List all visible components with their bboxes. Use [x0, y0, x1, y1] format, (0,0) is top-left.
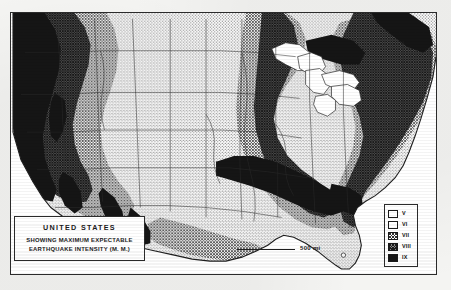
scale-bar-label: 500 mi	[300, 245, 320, 251]
legend-item: VII	[388, 230, 415, 241]
map-title-block: UNITED STATES SHOWING MAXIMUM EXPECTABLE…	[14, 216, 145, 261]
map-frame: UNITED STATES SHOWING MAXIMUM EXPECTABLE…	[10, 12, 437, 275]
legend-swatch-ix	[388, 254, 398, 262]
legend-swatch-vii	[388, 232, 398, 240]
legend-item: IX	[388, 252, 415, 263]
legend-label-viii: VIII	[402, 244, 411, 249]
legend-item: VI	[388, 219, 415, 230]
map-title-line2: SHOWING MAXIMUM EXPECTABLE	[26, 236, 133, 245]
legend-swatch-v	[388, 210, 398, 218]
scale-bar-line	[237, 249, 295, 250]
legend-swatch-viii	[388, 243, 398, 251]
legend-label-vi: VI	[402, 222, 408, 227]
scale-bar: 500 mi	[237, 246, 320, 252]
map-title-line3: EARTHQUAKE INTENSITY (M. M.)	[29, 245, 130, 254]
legend-swatch-vi	[388, 221, 398, 229]
legend-label-vii: VII	[402, 233, 409, 238]
intensity-legend: V VI VII VIII IX	[384, 204, 418, 267]
legend-item: V	[388, 208, 415, 219]
legend-item: VIII	[388, 241, 415, 252]
map-title-line1: UNITED STATES	[43, 223, 116, 232]
legend-label-v: V	[402, 211, 406, 216]
legend-label-ix: IX	[402, 255, 408, 260]
florida-detail	[341, 253, 345, 257]
